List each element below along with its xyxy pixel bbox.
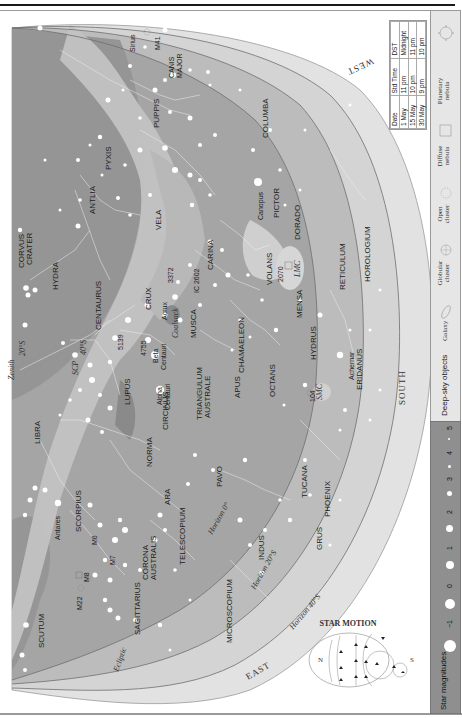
- label-4755: 4755: [140, 340, 147, 356]
- label-canis: CANIS: [168, 56, 175, 78]
- mag-dot-0: [445, 599, 455, 609]
- label-scorpius: SCORPIUS: [74, 490, 83, 532]
- star-motion-title: STAR MOTION: [320, 619, 377, 628]
- label-5139: 5139: [117, 334, 124, 350]
- mag-label: −1: [446, 620, 453, 628]
- label-carina: CARINA: [206, 239, 215, 270]
- table-row: 1 May 11 pm Midnight: [399, 22, 408, 129]
- label-volans: VOLANS: [265, 253, 274, 285]
- legend-strip: Deep-sky objects Galaxy Globular cluster…: [430, 10, 461, 712]
- cell: 15 May: [408, 96, 417, 129]
- mag-label: 0: [446, 584, 453, 588]
- cell: 11 pm: [408, 22, 417, 59]
- label-crater: CRATER: [25, 232, 34, 265]
- magnitude-title: Star magnitudes: [439, 652, 448, 710]
- mag-dot-4: [448, 465, 451, 468]
- mag-dot-neg1: [444, 640, 456, 652]
- label-ic2602: IC 2602: [193, 268, 200, 293]
- star-antares: [55, 500, 61, 506]
- deep-sky-legend: Deep-sky objects Galaxy Globular cluster…: [430, 10, 461, 422]
- label-centaurus: CENTAURUS: [94, 281, 103, 330]
- deep-sky-title: Deep-sky objects: [440, 355, 449, 416]
- label-australe: AUSTRALE: [203, 376, 212, 418]
- label-lmc: LMC: [293, 260, 302, 278]
- globular-cluster-icon: [439, 243, 453, 257]
- label-m6: M6: [91, 535, 98, 545]
- label-octans: OCTANS: [268, 364, 277, 397]
- label-coalsack: Coalsack: [171, 308, 180, 338]
- label-centauri-a: Centauri: [164, 383, 171, 410]
- mag-dot-2: [446, 525, 453, 532]
- label-tucana: TUCANA: [300, 464, 309, 498]
- star-canopus: [254, 178, 262, 186]
- label-libra: LIBRA: [33, 420, 42, 444]
- label-grus: GRUS: [315, 527, 324, 550]
- scp-label: SCP: [71, 361, 80, 375]
- label-2070: 2070: [277, 266, 284, 282]
- cell: 1 May: [399, 96, 408, 129]
- label-telescopium: TELESCOPIUM: [178, 507, 187, 565]
- label-norma: NORMA: [145, 437, 154, 467]
- label-beta: Beta: [152, 348, 159, 363]
- header-dst: DST: [391, 22, 400, 59]
- label-achernar: Achernar: [348, 351, 355, 380]
- table-row: 30 May 9 pm 10 pm: [417, 22, 426, 129]
- diffuse-nebula-icon: [438, 123, 454, 139]
- cell: 11 pm: [399, 58, 408, 96]
- label-hydrus: HYDRUS: [309, 326, 318, 360]
- label-centauri-b: Centauri: [160, 343, 167, 370]
- label-major: MAJOR: [176, 54, 183, 79]
- label-microscopium: MICROSCOPIUM: [225, 579, 234, 643]
- label-mensa: MENSA: [295, 289, 304, 318]
- label-canopus: Canopus: [257, 191, 265, 220]
- label-eridanus: ERIDANUS: [355, 349, 364, 390]
- cell: 30 May: [417, 96, 426, 129]
- legend-diffuse-nebula-label: Diffuse nebula: [437, 141, 451, 171]
- legend-planetary-nebula-label: Planetary nebula: [437, 73, 451, 109]
- label-indus: INDUS: [257, 535, 266, 560]
- south-marker: S: [410, 656, 414, 664]
- lat-20s-label: 20°S: [18, 341, 27, 356]
- label-dorado: DORADO: [293, 205, 302, 240]
- south-label: SOUTH: [397, 370, 407, 405]
- label-pictor: PICTOR: [272, 188, 281, 218]
- label-lupus: LUPUS: [123, 378, 132, 405]
- mag-dot-1: [446, 561, 454, 569]
- galaxy-icon: [439, 304, 453, 320]
- mag-dot-3: [447, 491, 452, 496]
- time-table: Date Std Time DST 1 May 11 pm Midnight 1…: [389, 20, 427, 130]
- cell: 9 pm: [417, 58, 426, 96]
- label-columba: COLUMBA: [261, 98, 270, 138]
- planetary-nebula-icon: [438, 25, 454, 41]
- label-ara: ARA: [163, 488, 172, 505]
- star-achernar: [337, 352, 343, 358]
- label-scutum: SCUTUM: [37, 613, 46, 648]
- mag-label: 4: [446, 451, 453, 455]
- table-header-row: Date Std Time DST: [391, 22, 400, 129]
- lat-40s-label: 40°S: [79, 340, 88, 355]
- label-apus: APUS: [233, 376, 242, 398]
- label-pavo: PAVO: [215, 466, 224, 487]
- cell: 10 pm: [417, 22, 426, 59]
- label-australis: AUSTRALIS: [149, 536, 158, 580]
- mag-label: 2: [446, 510, 453, 514]
- north-marker: N: [318, 656, 323, 664]
- cell: Midnight: [399, 22, 408, 59]
- cell: 10 pm: [408, 58, 417, 96]
- legend-open-cluster-label: Open cluster: [437, 199, 451, 229]
- mag-label: 3: [446, 477, 453, 481]
- label-antares: Antares: [54, 515, 61, 540]
- header-date: Date: [391, 96, 400, 129]
- label-phoenix: PHOENIX: [323, 480, 332, 517]
- table-row: 15 May 10 pm 11 pm: [408, 22, 417, 129]
- label-3372: 3372: [167, 267, 174, 283]
- star-acrux: [172, 294, 178, 300]
- mag-label: 1: [446, 546, 453, 550]
- label-m41: M41: [154, 36, 161, 50]
- header-std-time: Std Time: [391, 58, 400, 96]
- open-cluster-icon: [439, 186, 453, 200]
- zenith-label: Zenith: [7, 360, 16, 380]
- mag-label: 5: [446, 426, 453, 430]
- magnitude-legend: Star magnitudes −1 0 1 2 3 4 5: [430, 421, 461, 714]
- label-alpha: Alpha: [156, 387, 164, 405]
